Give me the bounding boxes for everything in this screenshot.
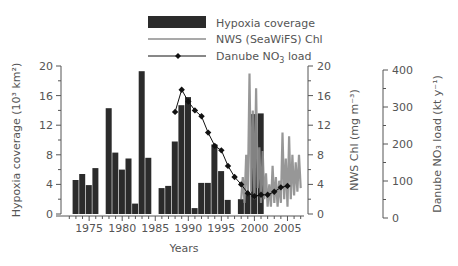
hypoxia-bars bbox=[73, 71, 264, 214]
hypoxia-bar bbox=[86, 185, 92, 214]
legend-label: Danube NO3 load bbox=[216, 50, 311, 65]
hypoxia-bar bbox=[178, 105, 184, 214]
no3-marker bbox=[178, 86, 184, 92]
hypoxia-bar bbox=[211, 144, 217, 214]
right1-axis-label: NWS Chl (mg m⁻³) bbox=[348, 89, 361, 191]
hypoxia-bar bbox=[92, 168, 98, 214]
right1-tick-label: 16 bbox=[317, 90, 331, 103]
chl-line bbox=[241, 73, 301, 206]
no3-marker bbox=[225, 163, 231, 169]
hypoxia-bar bbox=[145, 158, 151, 214]
hypoxia-bar bbox=[238, 199, 244, 214]
right1-tick-label: 8 bbox=[317, 149, 324, 162]
hypoxia-bar bbox=[198, 183, 204, 214]
chart: Hypoxia coverageNWS (SeaWiFS) ChlDanube … bbox=[0, 0, 458, 266]
hypoxia-bar bbox=[218, 171, 224, 214]
x-tick-label: 2000 bbox=[240, 222, 268, 235]
hypoxia-bar bbox=[112, 153, 118, 214]
left-tick-label: 8 bbox=[46, 149, 53, 162]
hypoxia-bar bbox=[172, 142, 178, 215]
right2-tick-label: 0 bbox=[392, 212, 399, 225]
left-tick-label: 16 bbox=[39, 90, 53, 103]
left-tick-label: 4 bbox=[46, 178, 53, 191]
right2-tick-label: 100 bbox=[392, 175, 413, 188]
right1-tick-label: 20 bbox=[317, 60, 331, 73]
hypoxia-bar bbox=[165, 186, 171, 214]
axes: 048121620Hypoxia coverage (10³ km²)19751… bbox=[10, 60, 444, 255]
chart-svg: Hypoxia coverageNWS (SeaWiFS) ChlDanube … bbox=[0, 0, 458, 266]
legend-label: NWS (SeaWiFS) Chl bbox=[216, 33, 323, 46]
left-tick-label: 0 bbox=[46, 208, 53, 221]
right1-tick-label: 12 bbox=[317, 119, 331, 132]
no3-marker bbox=[205, 129, 211, 135]
no3-marker bbox=[218, 147, 224, 153]
hypoxia-bar bbox=[159, 188, 165, 214]
legend: Hypoxia coverageNWS (SeaWiFS) ChlDanube … bbox=[148, 16, 323, 65]
left-tick-label: 20 bbox=[39, 60, 53, 73]
right2-axis-label: Danube NO₃ load (kt y⁻¹) bbox=[431, 75, 444, 213]
hypoxia-bar bbox=[73, 180, 79, 214]
x-tick-label: 1975 bbox=[75, 222, 103, 235]
right2-tick-label: 300 bbox=[392, 101, 413, 114]
x-tick-label: 1990 bbox=[174, 222, 202, 235]
right1-tick-label: 0 bbox=[317, 208, 324, 221]
x-tick-label: 1995 bbox=[207, 222, 235, 235]
hypoxia-bar bbox=[192, 208, 198, 214]
right2-tick-label: 200 bbox=[392, 138, 413, 151]
legend-label: Hypoxia coverage bbox=[216, 17, 315, 30]
left-axis-label: Hypoxia coverage (10³ km²) bbox=[10, 63, 23, 218]
hypoxia-bar bbox=[225, 200, 231, 214]
hypoxia-bar bbox=[79, 174, 85, 214]
no3-polyline bbox=[175, 90, 287, 197]
x-axis-label: Years bbox=[168, 242, 198, 255]
no3-marker bbox=[172, 109, 178, 115]
right1-tick-label: 4 bbox=[317, 178, 324, 191]
right2-tick-label: 400 bbox=[392, 64, 413, 77]
hypoxia-bar bbox=[132, 204, 138, 214]
hypoxia-bar bbox=[139, 71, 145, 214]
legend-bar-swatch bbox=[148, 16, 206, 28]
x-tick-label: 2005 bbox=[273, 222, 301, 235]
hypoxia-bar bbox=[126, 159, 132, 215]
x-tick-label: 1985 bbox=[141, 222, 169, 235]
x-tick-label: 1980 bbox=[108, 222, 136, 235]
chl-polyline bbox=[241, 73, 301, 206]
left-tick-label: 12 bbox=[39, 119, 53, 132]
hypoxia-bar bbox=[205, 183, 211, 214]
hypoxia-bar bbox=[106, 108, 112, 214]
hypoxia-bar bbox=[185, 97, 191, 214]
hypoxia-bar bbox=[119, 170, 125, 214]
